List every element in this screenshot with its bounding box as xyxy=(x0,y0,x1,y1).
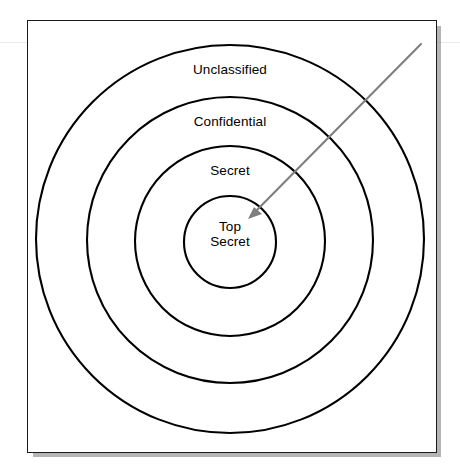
ring-label-top-secret-line2: Secret xyxy=(210,234,250,249)
diagram-canvas: Unclassified Confidential Secret TopSecr… xyxy=(0,0,460,472)
ring-label-confidential: Confidential xyxy=(0,114,460,129)
ring-label-top-secret: TopSecret xyxy=(0,219,460,249)
ring-label-secret: Secret xyxy=(0,163,460,178)
ring-label-top-secret-line1: Top xyxy=(219,219,241,234)
ring-label-unclassified: Unclassified xyxy=(0,62,460,77)
